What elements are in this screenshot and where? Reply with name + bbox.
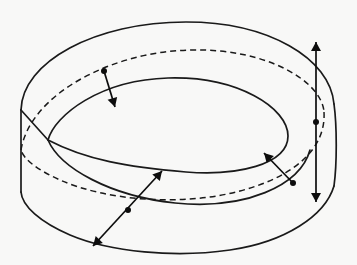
mobius-band-svg: Mobius band with normal vectors A Mobius…: [0, 0, 357, 265]
outer-top-edge: [21, 22, 334, 110]
vector-right: normal at right point: [311, 42, 321, 202]
outer-bottom-edge: [21, 186, 334, 254]
vector-right-base-point: [313, 119, 319, 125]
vector-upper-left-base-point: [101, 68, 107, 74]
band-surface-group: [21, 22, 336, 254]
inner-hole-edge: [48, 78, 288, 173]
centerline-group: [21, 50, 324, 200]
mobius-band-figure: Mobius band with normal vectors A Mobius…: [0, 0, 357, 265]
right-rim-outer-edge: [334, 104, 336, 186]
vector-upper-left-arrowhead-primary: [108, 97, 118, 107]
vector-bottom-base-point: [125, 207, 131, 213]
centerline-upper-dashed: [21, 50, 324, 150]
vector-bottom: normal at bottom point: [93, 171, 162, 246]
vector-lower-right-base-point: [290, 180, 296, 186]
vector-right-arrowhead-primary: [311, 42, 321, 51]
vector-right-arrowhead-secondary: [311, 193, 321, 202]
